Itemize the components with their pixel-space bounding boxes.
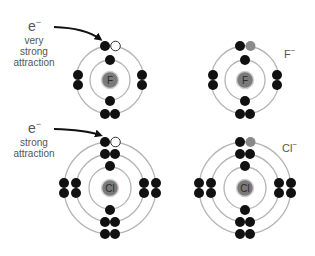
arrow-icon [54,129,100,135]
nucleus-symbol: Cl [105,183,114,194]
nucleus-symbol: Cl [240,183,249,194]
cl-atom-panel: e− strong attraction Cl [13,119,161,239]
attraction-text-line1: strong [20,137,48,148]
f-atom-panel: e− very strong attraction F [13,17,147,119]
vacancy-electron [111,41,121,51]
vacancy-electron [111,137,121,147]
cl-ion-panel: Cl Cl− [194,137,297,239]
electron-label: e− [28,119,41,136]
ion-label: Cl− [282,140,297,154]
diagram-canvas: e− very strong attraction F F [0,0,315,256]
f-ion-panel: F F− [208,41,296,119]
ion-label: F− [284,46,296,60]
electron-label: e− [28,17,41,34]
nucleus-symbol: F [107,75,113,86]
added-electron [246,41,256,51]
attraction-text-line3: attraction [13,57,54,68]
attraction-text-line2: strong [20,46,48,57]
attraction-text-line1: very [25,35,44,46]
arrow-icon [54,27,100,39]
nucleus-symbol: F [242,75,248,86]
attraction-text-line2: attraction [13,148,54,159]
added-electron [246,137,256,147]
